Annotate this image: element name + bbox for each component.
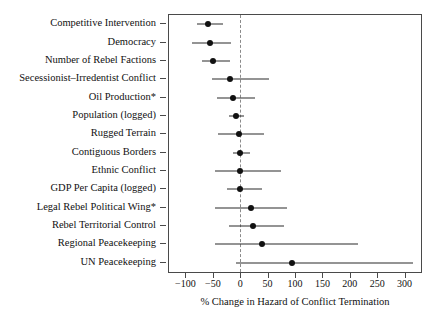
y-axis-label: Legal Rebel Political Wing* <box>37 198 156 216</box>
confidence-interval-line <box>236 262 413 263</box>
y-axis-label: Number of Rebel Factions <box>45 51 156 69</box>
estimate-row <box>169 125 421 143</box>
y-axis-tick <box>160 115 166 116</box>
y-axis-tick <box>160 262 166 263</box>
estimate-row <box>169 235 421 253</box>
x-axis-tick-label: 0 <box>238 278 243 289</box>
x-axis-tick-label: 150 <box>315 278 330 289</box>
x-axis-tick-label: 300 <box>397 278 412 289</box>
y-axis-tick <box>160 97 166 98</box>
estimate-point <box>250 223 256 229</box>
confidence-interval-line <box>212 79 270 80</box>
estimate-row <box>169 70 421 88</box>
y-axis-tick <box>160 243 166 244</box>
estimate-point <box>259 241 265 247</box>
estimate-point <box>237 168 243 174</box>
y-axis-label: Ethnic Conflict <box>92 161 156 179</box>
x-axis-tick-label: −100 <box>175 278 196 289</box>
y-axis-tick <box>160 23 166 24</box>
estimate-point <box>289 260 295 266</box>
confidence-interval-line <box>217 97 255 98</box>
confidence-interval-line <box>227 189 262 190</box>
estimate-point <box>237 186 243 192</box>
y-axis-label: Rebel Territorial Control <box>52 216 156 234</box>
y-axis-label: Contiguous Borders <box>72 143 156 161</box>
confidence-interval-line <box>229 226 284 227</box>
y-axis-tick <box>160 188 166 189</box>
estimate-row <box>169 144 421 162</box>
estimate-row <box>169 199 421 217</box>
y-axis-label: GDP Per Capita (logged) <box>51 179 156 197</box>
estimate-row <box>169 162 421 180</box>
x-axis-tick-label: −50 <box>205 278 221 289</box>
y-axis-tick <box>160 42 166 43</box>
y-axis-labels: Competitive InterventionDemocracyNumber … <box>0 14 168 273</box>
x-axis-tick-label: 200 <box>342 278 357 289</box>
confidence-interval-line <box>215 171 281 172</box>
estimate-point <box>230 95 236 101</box>
x-axis-tick-label: 250 <box>370 278 385 289</box>
y-axis-tick <box>160 78 166 79</box>
x-axis-tick-label: 100 <box>288 278 303 289</box>
y-axis-tick <box>160 133 166 134</box>
y-axis-label: Population (logged) <box>72 106 156 124</box>
estimate-point <box>205 21 211 27</box>
estimate-point <box>237 150 243 156</box>
y-axis-label: UN Peacekeeping <box>80 253 156 271</box>
estimate-row <box>169 107 421 125</box>
y-axis-tick <box>160 207 166 208</box>
estimate-row <box>169 52 421 70</box>
y-axis-label: Regional Peacekeeping <box>58 234 156 252</box>
y-axis-tick <box>160 170 166 171</box>
estimate-row <box>169 254 421 272</box>
y-axis-tick <box>160 225 166 226</box>
estimate-row <box>169 180 421 198</box>
y-axis-tick <box>160 60 166 61</box>
y-axis-label: Rugged Terrain <box>91 124 156 142</box>
estimate-row <box>169 34 421 52</box>
estimate-row <box>169 89 421 107</box>
estimate-row <box>169 217 421 235</box>
estimate-point <box>207 40 213 46</box>
y-axis-tick <box>160 152 166 153</box>
estimate-point <box>227 76 233 82</box>
y-axis-label: Secessionist–Irredentist Conflict <box>19 69 156 87</box>
estimate-point <box>233 113 239 119</box>
estimate-point <box>210 58 216 64</box>
x-axis-tick-labels: −100−50050100150200250300 <box>168 278 422 292</box>
estimate-row <box>169 15 421 33</box>
forest-plot-chart: Competitive InterventionDemocracyNumber … <box>0 0 442 319</box>
estimate-point <box>248 205 254 211</box>
plot-area <box>168 14 422 273</box>
estimate-point <box>236 131 242 137</box>
confidence-interval-line <box>215 244 358 245</box>
y-axis-label: Competitive Intervention <box>50 14 156 32</box>
x-axis-title: % Change in Hazard of Conflict Terminati… <box>168 296 422 307</box>
y-axis-label: Oil Production* <box>89 88 156 106</box>
x-axis-tick-label: 50 <box>263 278 273 289</box>
y-axis-label: Democracy <box>108 33 156 51</box>
